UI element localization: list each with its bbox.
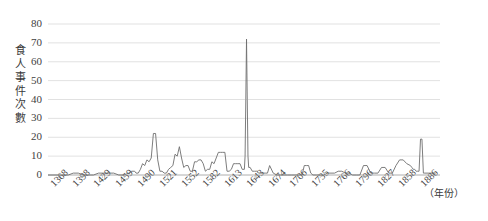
axis-tickmarks	[59, 175, 429, 178]
cannibalism-incidents-line-chart: 食 人 事 件 次 數 （年份） 01020304050607080 13681…	[0, 0, 488, 221]
data-series-line	[48, 39, 436, 175]
gridlines	[48, 24, 440, 175]
plot-area	[0, 0, 488, 221]
